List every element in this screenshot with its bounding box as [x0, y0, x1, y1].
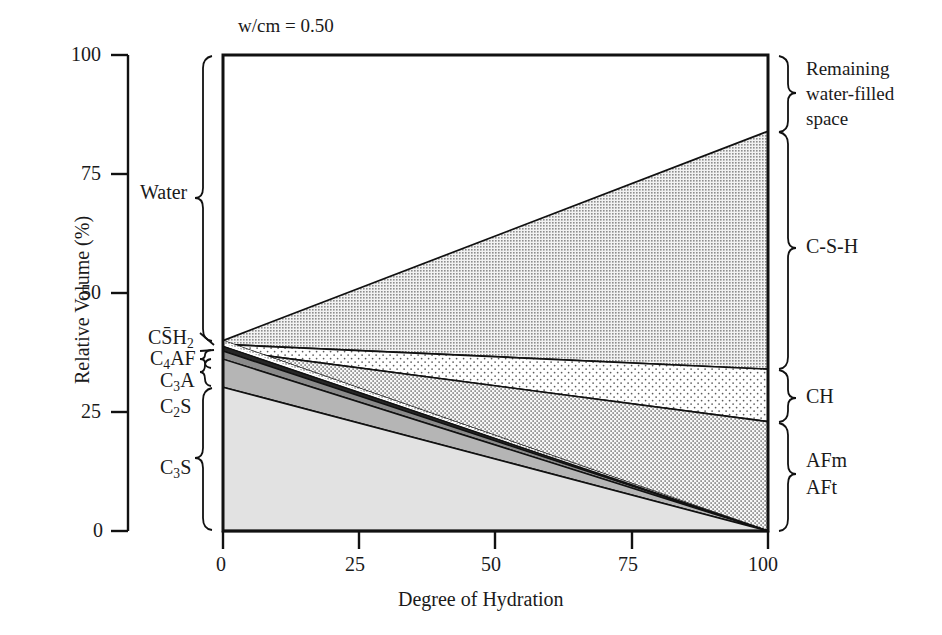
- plot-bands: [223, 55, 768, 531]
- brace-c2s: [200, 359, 211, 386]
- y-axis-title: Relative Volume (%): [72, 170, 92, 430]
- left-label-c3s-main: C: [160, 456, 173, 478]
- left-label-c4af-tail: AF: [170, 347, 196, 369]
- left-label-c3a-tail: A: [180, 369, 194, 391]
- right-label-ch: CH: [806, 386, 834, 406]
- x-tick-label-75: 75: [618, 554, 638, 574]
- brace-c3s: [195, 388, 212, 530]
- figure-root: w/cm = 0.50 100 75 50 25 0 0 25 50 75 10…: [0, 0, 942, 635]
- x-axis-title: Degree of Hydration: [398, 589, 564, 609]
- y-tick-label-0: 0: [93, 520, 103, 540]
- brace-water: [195, 56, 212, 341]
- brace-csh: [779, 132, 796, 369]
- left-label-c2s: C2S: [160, 396, 191, 419]
- left-label-water: Water: [140, 182, 187, 202]
- wcm-annotation: w/cm = 0.50: [238, 16, 334, 35]
- y-axis: [111, 55, 128, 531]
- left-label-c3s: C3S: [160, 457, 191, 480]
- left-label-cshbar2-main: CS̄H: [148, 326, 187, 348]
- left-label-c4af-main: C: [150, 347, 163, 369]
- right-label-remaining-line1: Remaining: [806, 56, 894, 81]
- left-label-c2s-tail: S: [180, 395, 191, 417]
- right-label-afm-aft: AFm AFt: [806, 447, 847, 501]
- x-tick-label-50: 50: [481, 554, 501, 574]
- left-label-c3a: C3A: [160, 370, 195, 393]
- x-tick-label-0: 0: [216, 554, 226, 574]
- right-label-remaining-line3: space: [806, 106, 894, 131]
- x-tick-label-25: 25: [345, 554, 365, 574]
- x-axis: [223, 531, 768, 549]
- hydration-volume-chart: [0, 0, 942, 635]
- left-label-c3a-main: C: [160, 369, 173, 391]
- pointer-csh2: [200, 333, 214, 345]
- left-label-c3s-tail: S: [180, 456, 191, 478]
- right-label-csh: C-S-H: [806, 236, 858, 256]
- brace-ch: [779, 370, 796, 422]
- brace-remaining: [779, 56, 796, 132]
- right-label-remaining-water-filled-space: Remaining water-filled space: [806, 56, 894, 131]
- left-label-c2s-main: C: [160, 395, 173, 417]
- right-label-remaining-line2: water-filled: [806, 81, 894, 106]
- left-label-c4af: C4AF: [150, 348, 196, 371]
- right-label-aft: AFt: [806, 474, 847, 501]
- right-label-afm: AFm: [806, 447, 847, 474]
- y-tick-label-100: 100: [71, 44, 101, 64]
- left-braces: [195, 56, 214, 530]
- brace-afmaft: [779, 423, 796, 531]
- right-braces: [779, 56, 796, 531]
- x-tick-label-100: 100: [748, 554, 778, 574]
